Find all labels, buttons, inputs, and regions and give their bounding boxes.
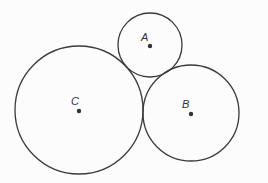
- label-b: B: [182, 98, 189, 110]
- label-c: C: [71, 95, 79, 107]
- circle-c: C: [15, 46, 143, 174]
- circle-a: A: [118, 13, 182, 77]
- diagram-svg: C A B: [0, 0, 268, 183]
- label-a: A: [140, 31, 148, 43]
- circle-b: B: [143, 65, 239, 161]
- tangent-circles-diagram: C A B: [0, 0, 268, 183]
